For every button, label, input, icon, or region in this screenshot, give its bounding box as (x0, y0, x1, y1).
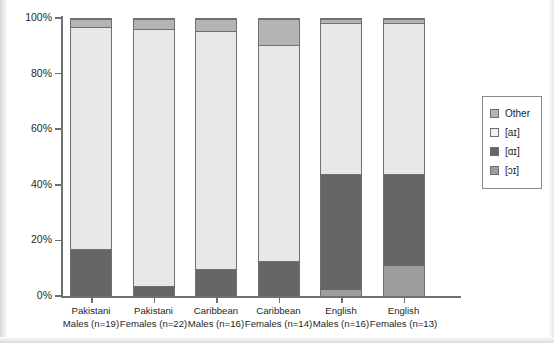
bar-segment (134, 29, 174, 287)
bar-2 (133, 18, 175, 296)
bar-segment (321, 23, 361, 174)
chart-legend: Other[aɪ][ɑɪ][ɔɪ] (482, 96, 542, 189)
bar-segment (259, 261, 299, 296)
legend-label: Other (505, 108, 530, 119)
bar-3 (195, 18, 237, 296)
x-axis-tick (279, 296, 281, 303)
bar-segment (384, 266, 424, 296)
x-axis-line (61, 296, 461, 298)
legend-item-4: [ɔɪ] (490, 161, 535, 180)
bar-segment (321, 174, 361, 290)
y-axis-tick-label: 40% (6, 178, 52, 190)
x-axis-label-line1: English (388, 305, 419, 316)
legend-swatch-icon (490, 147, 499, 156)
scan-edge-right (549, 0, 554, 343)
legend-item-2: [aɪ] (490, 123, 535, 142)
x-axis-label-line1: English (325, 305, 356, 316)
legend-label: [aɪ] (505, 127, 520, 138)
y-axis-tick (55, 128, 62, 130)
bar-segment (196, 269, 236, 296)
legend-label: [ɑɪ] (505, 146, 520, 157)
chart-page: 0%20%40%60%80%100% PakistaniMales (n=19)… (0, 0, 554, 343)
x-axis-label: EnglishFemales (n=13) (356, 305, 452, 330)
bar-segment (134, 286, 174, 296)
legend-item-3: [ɑɪ] (490, 142, 535, 161)
bar-segment (321, 290, 361, 296)
bar-6 (383, 18, 425, 296)
y-axis-tick (55, 73, 62, 75)
bar-segment (384, 174, 424, 265)
bar-segment (196, 19, 236, 31)
legend-swatch-icon (490, 128, 499, 137)
bar-1 (70, 18, 112, 296)
bar-5 (320, 18, 362, 296)
y-axis-tick (55, 295, 62, 297)
y-axis-tick (55, 17, 62, 19)
bar-segment (134, 19, 174, 29)
x-axis-tick (341, 296, 343, 303)
bar-segment (196, 31, 236, 269)
bar-segment (259, 19, 299, 45)
x-axis-tick (154, 296, 156, 303)
x-axis-label-line2: Females (n=13) (356, 318, 452, 331)
legend-swatch-icon (490, 166, 499, 175)
legend-label: [ɔɪ] (505, 165, 519, 176)
legend-item-1: Other (490, 104, 535, 123)
bar-4 (258, 18, 300, 296)
y-axis-tick (55, 240, 62, 242)
y-axis-tick-label: 80% (6, 67, 52, 79)
y-axis-tick (55, 184, 62, 186)
scan-edge-bottom (0, 337, 554, 343)
legend-swatch-icon (490, 109, 499, 118)
y-axis-tick-label: 100% (6, 11, 52, 23)
bar-segment (71, 19, 111, 27)
x-axis-tick (216, 296, 218, 303)
y-axis-tick-label: 20% (6, 233, 52, 245)
bar-segment (71, 27, 111, 249)
x-axis-tick (404, 296, 406, 303)
y-axis-tick-label: 60% (6, 122, 52, 134)
bar-segment (259, 45, 299, 261)
bar-segment (384, 23, 424, 174)
plot-area (62, 18, 458, 296)
bar-segment (71, 249, 111, 296)
y-axis-tick-label: 0% (6, 289, 52, 301)
x-axis-tick (91, 296, 93, 303)
